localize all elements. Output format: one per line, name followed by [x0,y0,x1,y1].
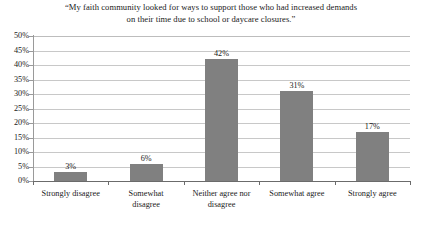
x-axis-tick [108,181,109,185]
x-axis-label-line: Somewhat [106,189,186,200]
x-axis-tick [184,181,185,185]
x-axis-label-line: Strongly agree [332,189,412,200]
x-axis-tick [259,181,260,185]
x-axis-label-line: disagree [182,200,262,211]
bar-value-label: 42% [202,49,242,58]
bar[interactable] [130,164,163,181]
x-axis-tick [335,181,336,185]
bar-value-label: 6% [126,154,166,163]
bar[interactable] [205,59,238,181]
x-axis-tick [410,181,411,185]
x-axis-label-line: Neither agree nor [182,189,262,200]
bar-chart: “My faith community looked for ways to s… [0,0,421,228]
x-axis-label-line: Somewhat agree [257,189,337,200]
x-axis-label-line: Strongly disagree [31,189,111,200]
bar[interactable] [280,91,313,181]
x-axis-label-line: disagree [106,200,186,211]
bar-value-label: 31% [277,81,317,90]
x-axis-label: Strongly agree [332,189,412,200]
bar[interactable] [356,132,389,181]
x-axis-label: Strongly disagree [31,189,111,200]
bar-value-label: 17% [352,122,392,131]
x-axis-label: Somewhatdisagree [106,189,186,210]
x-axis-tick [33,181,34,185]
x-axis-label: Somewhat agree [257,189,337,200]
x-axis-label: Neither agree nordisagree [182,189,262,210]
bar[interactable] [54,172,87,181]
bar-value-label: 3% [51,162,91,171]
